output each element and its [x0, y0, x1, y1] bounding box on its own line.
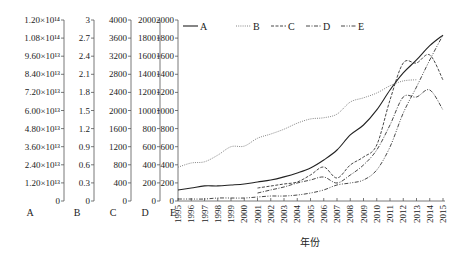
y-tick-label: 2.40×10¹³ — [25, 160, 61, 170]
y-axis-E: 0200400600800100012001400160018002000E — [156, 15, 178, 218]
y-tick-label: 2400 — [109, 87, 128, 97]
y-axis-name: D — [141, 207, 148, 218]
x-tick-label: 2003 — [279, 205, 289, 224]
x-tick-label: 2002 — [266, 205, 276, 223]
y-tick-label: 1.2 — [79, 124, 90, 134]
legend-label: E — [358, 21, 364, 32]
y-tick-label: 1400 — [156, 69, 175, 79]
y-tick-label: 2800 — [109, 69, 128, 79]
y-tick-label: 800 — [114, 160, 128, 170]
legend-label: C — [288, 21, 295, 32]
legend-item-C: C — [271, 21, 295, 32]
y-tick-label: 2000 — [156, 15, 175, 25]
x-tick-label: 2007 — [332, 205, 342, 224]
y-tick-label: 2000 — [138, 15, 157, 25]
y-tick-label: 6.00×10¹³ — [25, 106, 61, 116]
y-tick-label: 800 — [161, 124, 175, 134]
y-tick-label: 3200 — [109, 51, 128, 61]
y-tick-label: 1.20×10¹⁴ — [24, 15, 60, 25]
y-axis-A: 01.20×10¹³2.40×10¹³3.60×10¹³4.80×10¹³6.0… — [24, 15, 64, 218]
legend-item-A: A — [183, 21, 208, 32]
x-axis-label: 年份 — [300, 236, 320, 248]
y-tick-label: 0.9 — [79, 142, 91, 152]
y-tick-label: 2000 — [109, 106, 128, 116]
x-tick-label: 2005 — [306, 205, 316, 224]
y-tick-label: 200 — [143, 178, 157, 188]
y-tick-label: 0 — [56, 196, 61, 206]
series-line-C — [258, 54, 444, 188]
y-tick-label: 1600 — [109, 124, 128, 134]
x-tick-label: 2012 — [398, 205, 408, 223]
y-tick-label: 600 — [161, 142, 175, 152]
y-tick-label: 2.1 — [79, 69, 90, 79]
x-tick-label: 2010 — [372, 205, 382, 224]
x-tick-label: 2015 — [438, 205, 448, 224]
legend-label: A — [200, 21, 208, 32]
y-tick-label: 1200 — [156, 87, 175, 97]
y-tick-label: 4000 — [109, 15, 128, 25]
y-axis-C: 040080012001600200024002800320036004000C — [109, 15, 131, 218]
y-tick-label: 1000 — [138, 106, 157, 116]
y-axis-D: 0200400600800100012001400160018002000D — [138, 15, 160, 218]
x-tick-label: 2008 — [345, 205, 355, 224]
y-tick-label: 7.20×10¹³ — [25, 87, 61, 97]
series-line-A — [178, 35, 443, 190]
series-line-B — [178, 80, 417, 167]
y-tick-label: 0 — [170, 196, 175, 206]
y-tick-label: 1.5 — [79, 106, 91, 116]
legend-item-D: D — [306, 21, 330, 32]
x-tick-label: 2009 — [359, 205, 369, 224]
y-tick-label: 1200 — [138, 87, 157, 97]
y-tick-label: 0 — [152, 196, 157, 206]
y-tick-label: 0 — [86, 196, 91, 206]
y-tick-label: 800 — [143, 124, 157, 134]
y-tick-label: 400 — [161, 160, 175, 170]
y-tick-label: 0.6 — [79, 160, 91, 170]
y-tick-label: 1000 — [156, 106, 175, 116]
x-tick-label: 1996 — [186, 205, 196, 224]
x-tick-label: 2006 — [319, 205, 329, 224]
x-tick-label: 2013 — [412, 205, 422, 224]
legend-label: B — [253, 21, 260, 32]
y-tick-label: 9.60×10¹³ — [25, 51, 61, 61]
x-axis: 1995199619971998199920002001200220032004… — [173, 198, 448, 223]
y-tick-label: 600 — [143, 142, 157, 152]
y-tick-label: 1600 — [156, 51, 175, 61]
y-tick-label: 3.60×10¹³ — [25, 142, 61, 152]
x-tick-label: 2014 — [425, 205, 435, 224]
y-tick-label: 200 — [161, 178, 175, 188]
y-tick-label: 2.7 — [79, 33, 91, 43]
y-axis-name: A — [26, 207, 34, 218]
y-tick-label: 1200 — [109, 142, 128, 152]
y-axis-B: 00.30.60.91.21.51.82.12.42.73B — [74, 15, 94, 218]
y-tick-label: 1800 — [156, 33, 175, 43]
y-tick-label: 2.4 — [79, 51, 91, 61]
x-tick-label: 1997 — [200, 205, 210, 224]
y-axes: 01.20×10¹³2.40×10¹³3.60×10¹³4.80×10¹³6.0… — [24, 15, 178, 218]
x-tick-label: 1999 — [226, 205, 236, 224]
y-tick-label: 400 — [114, 178, 128, 188]
y-tick-label: 0 — [123, 196, 128, 206]
y-tick-label: 1800 — [138, 33, 157, 43]
y-tick-label: 8.40×10¹³ — [25, 69, 61, 79]
legend: ABCDE — [183, 21, 364, 32]
series-line-D — [258, 90, 444, 193]
y-axis-name: B — [74, 207, 81, 218]
legend-label: D — [323, 21, 330, 32]
y-tick-label: 3600 — [109, 33, 128, 43]
x-tick-label: 1995 — [173, 205, 183, 224]
y-tick-label: 1.8 — [79, 87, 91, 97]
x-tick-label: 2001 — [253, 205, 263, 223]
legend-item-B: B — [236, 21, 260, 32]
x-tick-label: 2011 — [385, 205, 395, 223]
multi-axis-line-chart: 01.20×10¹³2.40×10¹³3.60×10¹³4.80×10¹³6.0… — [0, 0, 463, 255]
y-tick-label: 1400 — [138, 69, 157, 79]
x-tick-label: 2000 — [239, 205, 249, 224]
x-tick-label: 2004 — [292, 205, 302, 224]
y-tick-label: 4.80×10¹³ — [25, 124, 61, 134]
y-tick-label: 1.20×10¹³ — [25, 178, 61, 188]
y-tick-label: 1.08×10¹⁴ — [24, 33, 60, 43]
y-axis-name: C — [110, 207, 117, 218]
y-tick-label: 0.3 — [79, 178, 91, 188]
legend-item-E: E — [341, 21, 364, 32]
